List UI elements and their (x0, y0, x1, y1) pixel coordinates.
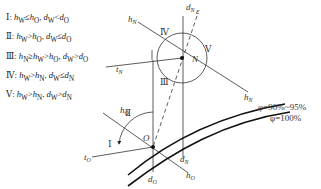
zone-I: Ⅰ (108, 139, 112, 149)
label-O: O (143, 133, 150, 143)
point-N (180, 56, 184, 60)
curve-90-95 (128, 104, 285, 175)
label-curve-100: φ=100% (270, 113, 302, 123)
zone-II: Ⅱ (125, 108, 131, 118)
tO-line (92, 147, 153, 157)
zone-III: Ⅲ (160, 77, 169, 87)
label-dO: dO (148, 174, 158, 185)
label-dN-top: dN (186, 2, 196, 13)
zone-IV: Ⅳ (160, 27, 170, 37)
zone-V: Ⅴ (204, 44, 212, 54)
psychrometric-diagram: dN ε hN Ⅳ Ⅴ N tN Ⅲ hN hO Ⅱ O Ⅰ tO dN hO … (0, 0, 321, 189)
label-hO-bottom: hO (186, 170, 196, 181)
label-tO: tO (84, 152, 92, 163)
label-dN-bottom: dN (180, 154, 190, 165)
label-hN-top: hN (128, 14, 138, 25)
point-O (151, 145, 155, 149)
label-hN-bottom: hN (244, 92, 254, 103)
label-N: N (191, 54, 199, 64)
label-curve-90-95: φ=90%~95% (258, 102, 307, 112)
label-epsilon: ε (196, 6, 200, 16)
